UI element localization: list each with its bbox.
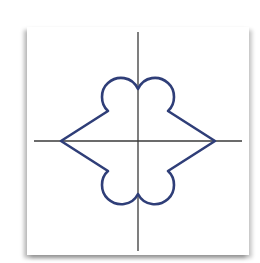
curve-figure <box>0 0 260 263</box>
